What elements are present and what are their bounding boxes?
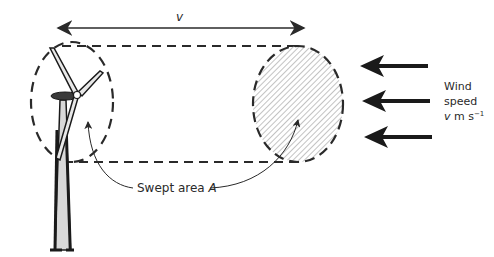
wind-arrow-icon (360, 55, 428, 77)
wind-turbine-diagram: v Swept area A (0, 0, 494, 257)
downstream-swept-area-disc (253, 46, 343, 162)
wind-turbine-icon (50, 48, 103, 250)
wind-arrows (360, 55, 432, 148)
svg-text:speed: speed (444, 95, 477, 108)
wind-arrow-icon (362, 90, 430, 112)
svg-text:v m s−1: v m s−1 (444, 110, 484, 123)
svg-text:Wind: Wind (444, 80, 472, 93)
length-label: v (176, 10, 184, 24)
wind-speed-label: Wind speed v m s−1 (444, 80, 484, 123)
wind-arrow-icon (364, 126, 432, 148)
swept-area-label: Swept area A (137, 181, 217, 195)
